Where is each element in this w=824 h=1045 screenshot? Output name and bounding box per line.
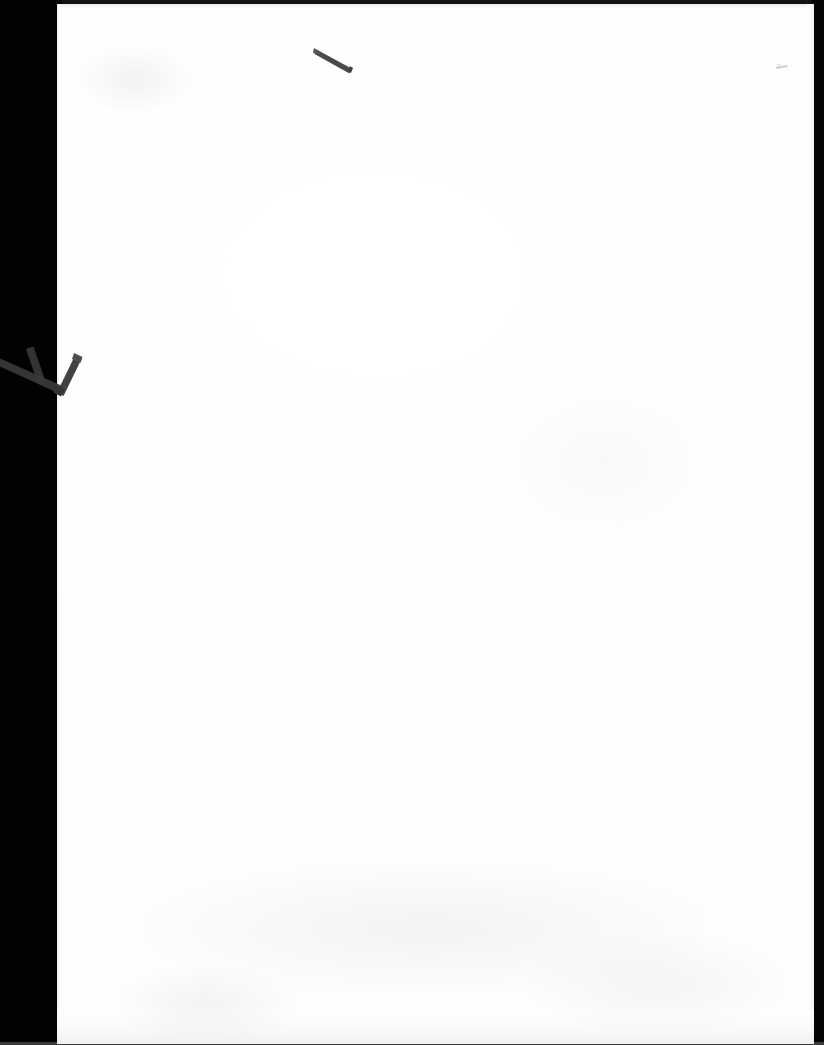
paper-sheet xyxy=(57,4,814,1044)
paper-edge-top xyxy=(57,4,814,9)
scanned-page-canvas xyxy=(0,0,824,1045)
paper-edge-right xyxy=(807,4,814,1044)
paper-smudge-mid-right xyxy=(497,384,707,534)
paper-edge-left xyxy=(57,4,61,1044)
paper-smudge-top-left xyxy=(75,44,195,114)
scanner-backing-left xyxy=(0,0,62,1045)
paper-smudge-bottom-band xyxy=(147,864,707,994)
paper-edge-bottom xyxy=(57,1010,814,1044)
